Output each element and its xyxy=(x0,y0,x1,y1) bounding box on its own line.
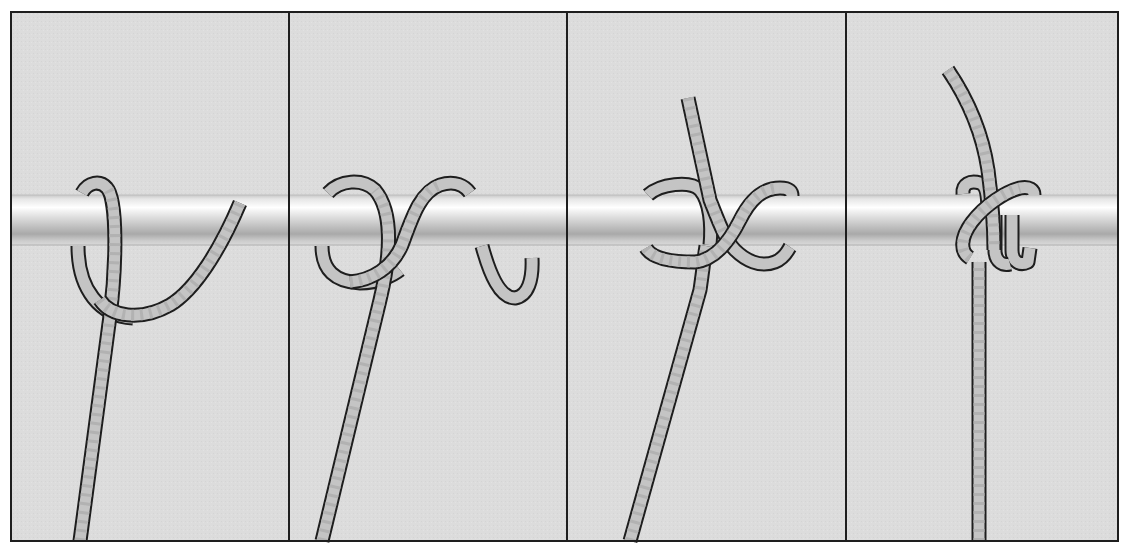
horizontal-bar xyxy=(11,195,1118,245)
knot-diagram xyxy=(0,0,1127,547)
panel-area xyxy=(11,12,1118,541)
